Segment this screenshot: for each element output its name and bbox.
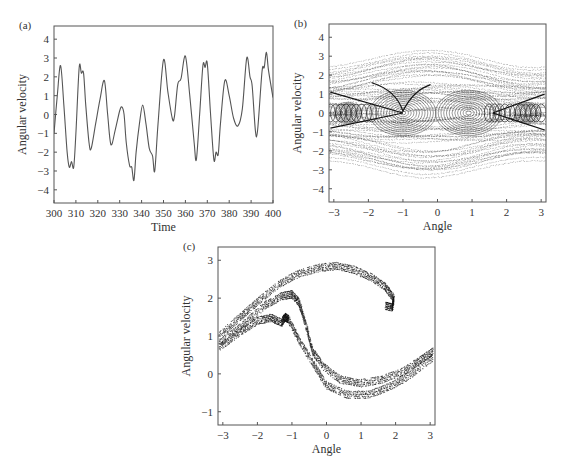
x-tick-label: 0: [435, 206, 441, 218]
y-tick-label: −1: [201, 406, 213, 418]
x-tick-label: 390: [243, 207, 260, 219]
y-tick-label: 0: [319, 107, 325, 119]
y-tick-label: −1: [312, 126, 324, 138]
y-tick-label: 3: [208, 254, 214, 266]
x-tick-label: 320: [90, 207, 107, 219]
x-tick-label: 310: [68, 207, 85, 219]
series-line: [54, 52, 273, 180]
y-tick-label: 1: [319, 88, 325, 100]
y-tick-label: −3: [312, 164, 324, 176]
x-tick-label: 340: [133, 207, 150, 219]
plot-area-b: [325, 50, 546, 179]
x-tick-label: 330: [111, 207, 128, 219]
x-tick-label: 370: [199, 207, 216, 219]
plot-area-c: [219, 262, 434, 399]
panel-a: 300310320330340350360370380390400−4−3−2−…: [15, 19, 282, 234]
panel-label: (a): [19, 19, 32, 32]
x-axis-label: Time: [151, 220, 176, 234]
x-tick-label: 400: [265, 207, 282, 219]
y-axis-label: Angular velocity: [15, 74, 29, 155]
x-tick-label: −2: [252, 429, 264, 441]
x-tick-label: 1: [358, 429, 364, 441]
y-tick-label: 1: [208, 330, 214, 342]
y-tick-label: 4: [44, 33, 50, 45]
x-tick-label: −1: [397, 206, 409, 218]
panel-label: (c): [183, 240, 196, 253]
y-tick-label: −3: [37, 165, 49, 177]
x-tick-label: 380: [221, 207, 238, 219]
y-tick-label: 4: [319, 31, 325, 43]
x-tick-label: −3: [328, 206, 340, 218]
axes-frame: [218, 247, 435, 425]
y-axis-label: Angular velocity: [179, 296, 193, 377]
panel-label: (b): [294, 17, 307, 30]
phase-trajectory: [325, 50, 546, 179]
y-tick-label: −2: [312, 145, 324, 157]
y-tick-label: −1: [37, 127, 49, 139]
x-tick-label: −2: [363, 206, 375, 218]
x-axis-label: Angle: [423, 219, 452, 233]
y-tick-label: 3: [44, 52, 50, 64]
x-tick-label: 350: [155, 207, 172, 219]
x-axis-label: Angle: [312, 442, 341, 456]
x-tick-label: 3: [427, 429, 433, 441]
x-tick-label: −1: [286, 429, 298, 441]
y-tick-label: 0: [208, 368, 214, 380]
y-tick-label: −2: [37, 146, 49, 158]
y-tick-label: 0: [44, 109, 50, 121]
y-tick-label: 2: [319, 69, 325, 81]
figure: 300310320330340350360370380390400−4−3−2−…: [0, 0, 565, 466]
x-tick-label: 300: [46, 207, 63, 219]
y-tick-label: −4: [312, 183, 324, 195]
y-axis-label: Angular velocity: [290, 73, 304, 154]
y-tick-label: 2: [44, 71, 50, 83]
y-tick-label: 3: [319, 50, 325, 62]
x-tick-label: 1: [469, 206, 475, 218]
plot-area-a: [54, 52, 273, 180]
x-tick-label: 360: [177, 207, 194, 219]
panel-c: −3−2−10123−10123AngleAngular velocity(c): [179, 240, 435, 456]
x-tick-label: 2: [393, 429, 399, 441]
panel-b: −3−2−10123−4−3−2−101234AngleAngular velo…: [290, 17, 546, 233]
x-tick-label: 0: [324, 429, 330, 441]
attractor-points: [219, 262, 434, 399]
y-tick-label: 2: [208, 292, 214, 304]
x-tick-label: 3: [538, 206, 544, 218]
x-tick-label: 2: [504, 206, 510, 218]
x-tick-label: −3: [217, 429, 229, 441]
y-tick-label: −4: [37, 184, 49, 196]
y-tick-label: 1: [44, 90, 50, 102]
